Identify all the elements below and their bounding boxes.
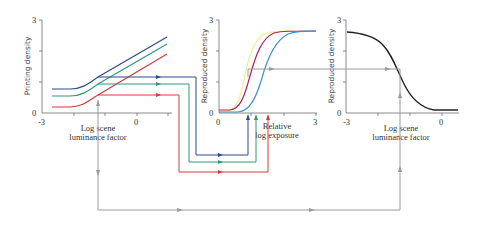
curve-red [52,54,167,107]
y-axis-label: Reproduced density [200,28,209,103]
flow-green [98,84,256,162]
panel-print: 3 0 0 3 Reproduced density Relative log … [200,15,317,140]
y-tick-3: 3 [32,15,36,25]
tone-reproduction-diagram: 3 0 -3 0 Printing density Log scene lumi… [0,0,481,227]
x-tick-0: 0 [216,117,220,127]
curve-blue [52,37,167,89]
y-tick-3: 3 [209,15,213,25]
flow-connectors [96,67,402,212]
x-tick-3: 3 [313,117,317,127]
x-axis-label-2: luminance factor [372,132,430,142]
x-tick-0: 0 [439,117,443,127]
curve-overall [347,32,458,110]
flow-blue [98,77,248,155]
panel-overall: 3 0 -3 0 Reproduced density Log scene lu… [327,15,459,142]
flow-print-to-overall [248,69,400,84]
curve-magenta [219,31,316,110]
curve-yellow [219,31,292,111]
x-tick-neg3: -3 [343,117,350,127]
y-tick-0: 0 [337,108,341,118]
curve-cyan [219,31,316,112]
y-tick-3: 3 [337,15,341,25]
y-axis-label: Printing density [23,36,32,95]
x-tick-neg3: -3 [38,117,45,127]
x-axis-label-2: log exposure [255,130,299,140]
y-tick-0: 0 [209,108,213,118]
y-axis-label: Reproduced density [327,28,336,103]
x-tick-0: 0 [134,117,138,127]
y-tick-0: 0 [32,108,36,118]
flow-scene-guide [98,84,400,210]
